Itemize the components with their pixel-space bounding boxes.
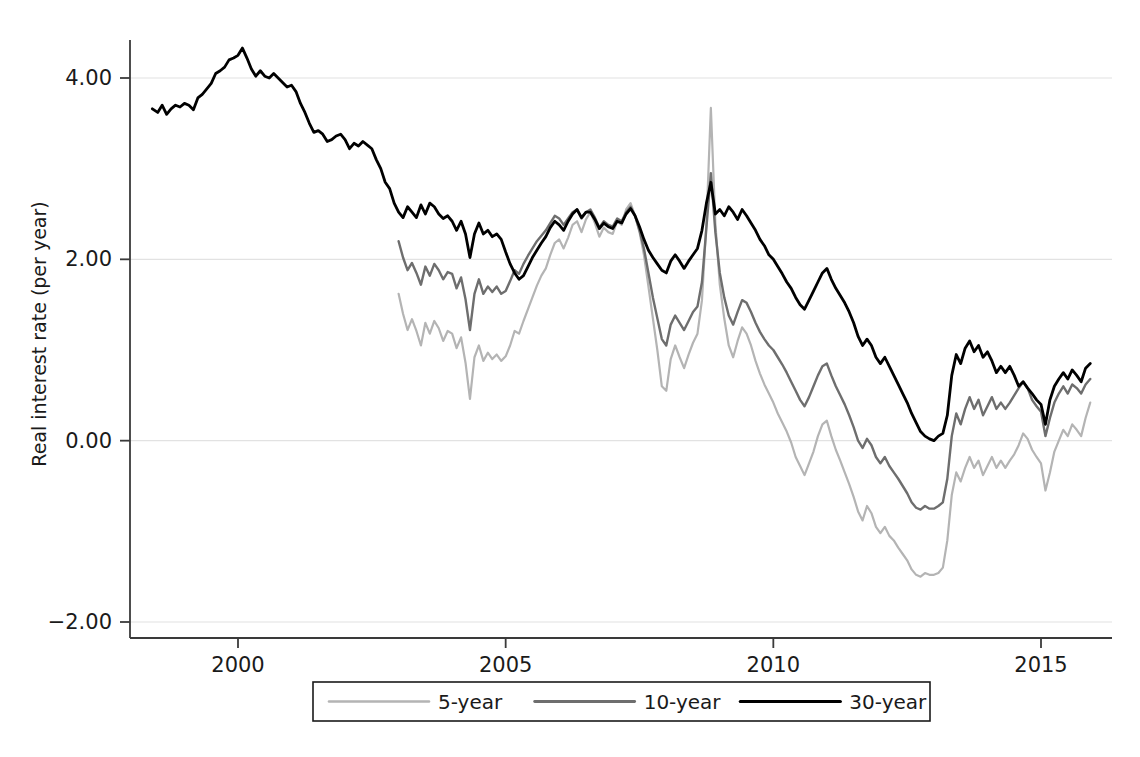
y-tick-label: −2.00 (48, 610, 112, 634)
y-tick-label: 2.00 (65, 247, 112, 271)
x-tick-label: 2005 (479, 653, 532, 677)
line-chart: −2.000.002.004.00 Real interest rate (pe… (0, 0, 1140, 757)
x-tick-label: 2000 (211, 653, 264, 677)
x-tick-label: 2015 (1014, 653, 1067, 677)
legend-label-10-year[interactable]: 10-year (644, 690, 722, 714)
y-tick-label: 0.00 (65, 429, 112, 453)
chart-background (0, 0, 1140, 757)
y-tick-label: 4.00 (65, 66, 112, 90)
x-tick-label: 2010 (747, 653, 800, 677)
y-axis-title: Real interest rate (per year) (28, 201, 50, 466)
legend-label-5-year[interactable]: 5-year (438, 690, 503, 714)
chart-figure: −2.000.002.004.00 Real interest rate (pe… (0, 0, 1140, 757)
legend-label-30-year[interactable]: 30-year (849, 690, 927, 714)
